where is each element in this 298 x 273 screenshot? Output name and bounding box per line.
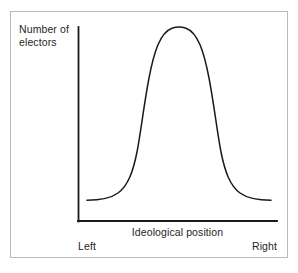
x-axis-label: Ideological position — [78, 226, 277, 239]
chart-figure: Number of electors Ideological position … — [0, 0, 298, 273]
x-axis-right-end-label: Right — [178, 240, 277, 253]
elector-distribution-curve — [87, 27, 271, 200]
x-axis-left-end-label: Left — [78, 240, 96, 253]
y-axis-label: Number of electors — [19, 23, 69, 48]
